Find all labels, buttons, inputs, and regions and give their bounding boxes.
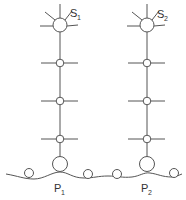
- bottom-node-p1: [53, 157, 68, 172]
- ray: [67, 25, 78, 26]
- label-p1-sub: 1: [61, 189, 65, 196]
- intermediate-node: [143, 97, 151, 105]
- intermediate-node: [143, 59, 151, 67]
- label-s2-sub: 2: [164, 15, 168, 22]
- ray: [132, 12, 142, 20]
- top-node-s1: [53, 18, 67, 32]
- ray: [154, 25, 165, 26]
- ray: [45, 12, 55, 20]
- ground-circle: [25, 169, 34, 178]
- diagram-canvas: S 1 P 1 S 2 P 2: [0, 0, 186, 200]
- intermediate-node: [56, 97, 64, 105]
- intermediate-node: [56, 59, 64, 67]
- label-s1-sub: 1: [77, 14, 81, 21]
- intermediate-node: [143, 135, 151, 143]
- ground-circle: [113, 170, 122, 179]
- ground-circle: [170, 169, 179, 178]
- ground-circle: [84, 170, 93, 179]
- top-node-s2: [140, 18, 154, 32]
- column-2: S 2 P 2: [127, 4, 168, 196]
- label-p2-sub: 2: [148, 189, 152, 196]
- bottom-node-p2: [140, 157, 155, 172]
- intermediate-node: [56, 135, 64, 143]
- column-1: S 1 P 1: [40, 4, 81, 196]
